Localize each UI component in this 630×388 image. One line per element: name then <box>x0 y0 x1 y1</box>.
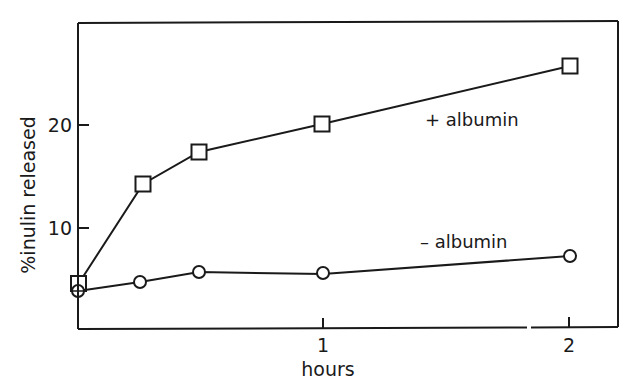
square-marker <box>136 177 151 192</box>
y-tick-label-10: 10 <box>48 217 72 239</box>
circle-marker <box>564 250 576 262</box>
series-minus-albumin <box>72 250 576 297</box>
y-axis-label: %inulin released <box>17 116 39 273</box>
circle-marker <box>193 266 205 278</box>
x-ticks: 1 2 <box>317 317 575 356</box>
x-axis-line-left <box>78 328 527 330</box>
chart-canvas: 20 10 1 2 hours %inulin released <box>0 0 630 388</box>
square-marker <box>563 59 578 74</box>
x-tick-label-2: 2 <box>563 334 575 356</box>
circle-marker <box>134 276 146 288</box>
chart-figure: 20 10 1 2 hours %inulin released <box>0 0 630 388</box>
y-ticks: 20 10 <box>48 114 89 239</box>
circle-marker <box>317 267 329 279</box>
annotation-minus-albumin: – albumin <box>420 231 508 252</box>
y-tick-label-20: 20 <box>48 114 72 136</box>
series-plus-albumin <box>71 59 578 292</box>
top-frame-line <box>78 21 618 23</box>
x-axis-label: hours <box>301 358 354 380</box>
annotation-plus-albumin: + albumin <box>425 109 519 130</box>
square-marker <box>315 117 330 132</box>
square-marker <box>192 145 207 160</box>
x-tick-label-1: 1 <box>317 334 329 356</box>
x-axis-line-right <box>531 327 618 328</box>
